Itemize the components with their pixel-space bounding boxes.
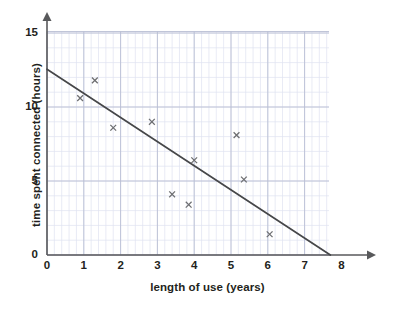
data-point-markers xyxy=(77,77,272,237)
y-axis-title-wrapper: time spent connected (hours) xyxy=(30,20,48,270)
x-axis-title: length of use (years) xyxy=(0,281,415,293)
trend-line xyxy=(47,69,330,255)
x-tick-label-3: 3 xyxy=(145,259,169,271)
data-point-1 xyxy=(92,77,98,83)
data-point-0 xyxy=(77,95,83,101)
grid-minor-lines xyxy=(47,32,329,256)
x-tick-label-2: 2 xyxy=(109,259,133,271)
x-tick-label-8: 8 xyxy=(329,259,353,271)
x-tick-label-4: 4 xyxy=(182,259,206,271)
grid-major-lines xyxy=(47,32,329,256)
x-tick-label-1: 1 xyxy=(72,259,96,271)
x-tick-label-7: 7 xyxy=(293,259,317,271)
x-tick-label-5: 5 xyxy=(219,259,243,271)
scatter-plot-figure: 012345678 051015 length of use (years) t… xyxy=(0,0,415,309)
y-axis-title: time spent connected (hours) xyxy=(30,20,42,270)
x-tick-label-6: 6 xyxy=(256,259,280,271)
